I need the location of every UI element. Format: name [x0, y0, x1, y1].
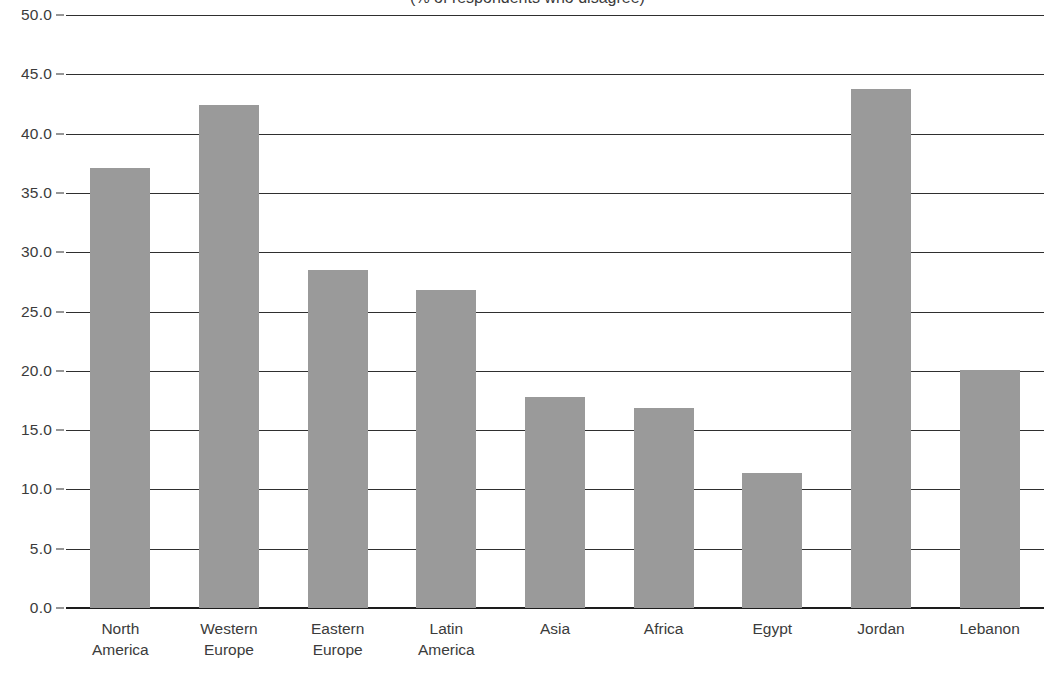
- y-axis-tick-label: 15.0: [0, 421, 52, 439]
- x-axis-label-line: Lebanon: [935, 618, 1044, 639]
- y-axis-tick-label: 0.0: [0, 599, 52, 617]
- bar[interactable]: [199, 105, 259, 608]
- y-axis-tick-label: 35.0: [0, 184, 52, 202]
- bar[interactable]: [308, 270, 368, 608]
- x-axis-label-line: Europe: [175, 639, 284, 660]
- x-axis-label-line: Egypt: [718, 618, 827, 639]
- x-axis-label-line: America: [392, 639, 501, 660]
- chart-title: (% of respondents who disagree): [0, 0, 1055, 7]
- y-axis-tick-label: 45.0: [0, 65, 52, 83]
- x-axis-category-label: Egypt: [718, 618, 827, 639]
- y-axis-tick-label: 25.0: [0, 303, 52, 321]
- x-axis-category-label: LatinAmerica: [392, 618, 501, 660]
- x-axis-category-label: Jordan: [827, 618, 936, 639]
- y-axis-tick-mark: [56, 370, 64, 371]
- bar[interactable]: [416, 290, 476, 608]
- x-axis-category-label: WesternEurope: [175, 618, 284, 660]
- y-axis-tick-label: 20.0: [0, 362, 52, 380]
- x-axis-label-line: America: [66, 639, 175, 660]
- chart-title-container: (% of respondents who disagree): [0, 0, 1055, 12]
- x-axis-label-line: Asia: [501, 618, 610, 639]
- x-axis-category-label: Lebanon: [935, 618, 1044, 639]
- y-axis-tick-mark: [56, 548, 64, 549]
- y-axis-tick-mark: [56, 430, 64, 431]
- x-axis-label-line: Western: [175, 618, 284, 639]
- y-axis-tick-mark: [56, 133, 64, 134]
- x-axis-label-line: North: [66, 618, 175, 639]
- x-axis-label-line: Eastern: [283, 618, 392, 639]
- x-axis-category-labels: NorthAmericaWesternEuropeEasternEuropeLa…: [66, 618, 1044, 678]
- y-axis-tick-label: 40.0: [0, 125, 52, 143]
- x-axis-label-line: Europe: [283, 639, 392, 660]
- x-axis-label-line: Latin: [392, 618, 501, 639]
- x-axis-category-label: Africa: [609, 618, 718, 639]
- plot-area: 50.045.040.035.030.025.020.015.010.05.00…: [66, 15, 1044, 608]
- x-axis-category-label: EasternEurope: [283, 618, 392, 660]
- bar[interactable]: [960, 370, 1020, 608]
- bar[interactable]: [851, 89, 911, 608]
- y-axis-tick-mark: [56, 311, 64, 312]
- y-axis-tick-mark: [56, 252, 64, 253]
- y-axis-tick-label: 5.0: [0, 540, 52, 558]
- bar[interactable]: [634, 408, 694, 608]
- y-axis-tick-mark: [56, 608, 64, 609]
- x-axis-label-line: Jordan: [827, 618, 936, 639]
- y-axis-tick-mark: [56, 15, 64, 16]
- x-axis-label-line: Africa: [609, 618, 718, 639]
- y-axis-tick-mark: [56, 489, 64, 490]
- y-axis-tick-mark: [56, 74, 64, 75]
- bar[interactable]: [525, 397, 585, 608]
- y-axis-tick-label: 30.0: [0, 243, 52, 261]
- y-axis-tick-label: 10.0: [0, 480, 52, 498]
- bar[interactable]: [90, 168, 150, 608]
- bars-group: [66, 15, 1044, 608]
- y-axis-tick-mark: [56, 192, 64, 193]
- y-axis-tick-label: 50.0: [0, 6, 52, 24]
- x-axis-category-label: Asia: [501, 618, 610, 639]
- x-axis-category-label: NorthAmerica: [66, 618, 175, 660]
- bar[interactable]: [742, 473, 802, 608]
